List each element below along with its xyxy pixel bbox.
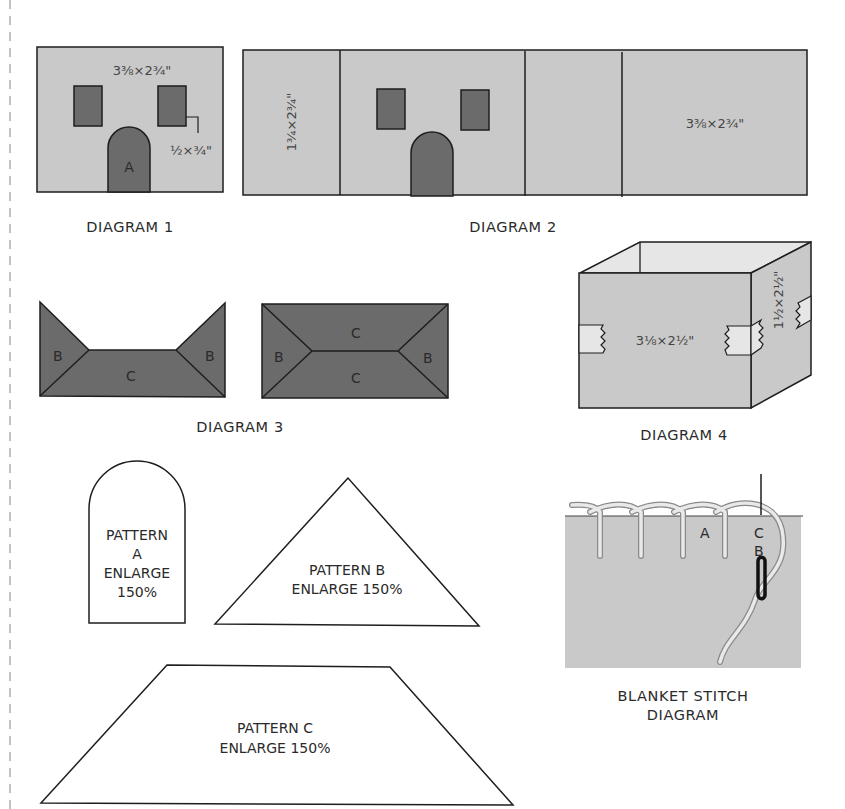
roof-unfolded: B C B: [40, 302, 225, 397]
window-right: [461, 90, 489, 130]
diagram-2-caption: DIAGRAM 2: [469, 219, 557, 235]
diagram-4: 3⅛×2½" 1½×2½" DIAGRAM 4: [579, 242, 811, 443]
side-dimension: 1¾×2¾": [284, 93, 299, 152]
label-b: B: [205, 348, 215, 364]
panel-dimension: 3⅜×2¾": [113, 63, 172, 78]
diagram-4-caption: DIAGRAM 4: [640, 427, 728, 443]
blanket-stitch-caption-2: DIAGRAM: [647, 707, 719, 723]
label-c: C: [351, 370, 361, 386]
point-b: B: [754, 543, 764, 559]
label-c: C: [351, 325, 361, 341]
pattern-b-line1: PATTERN B: [309, 562, 385, 578]
pattern-c-line1: PATTERN C: [237, 720, 313, 736]
pattern-a: PATTERN A ENLARGE 150%: [89, 461, 185, 623]
label-b: B: [53, 348, 63, 364]
label-c: C: [126, 368, 136, 384]
blanket-stitch-caption-1: BLANKET STITCH: [617, 688, 748, 704]
window-dimension: ½×¾": [170, 143, 212, 158]
window-left: [377, 89, 405, 129]
pattern-b: PATTERN B ENLARGE 150%: [215, 478, 479, 626]
window-left: [74, 86, 102, 126]
label-b: B: [423, 350, 433, 366]
roof-assembled: C B C B: [262, 304, 448, 398]
pattern-a-line4: 150%: [117, 584, 157, 600]
diagram-2: 1¾×2¾" 3⅜×2¾" DIAGRAM 2: [243, 50, 807, 235]
front-dimension: 3⅛×2½": [636, 333, 695, 348]
point-a: A: [700, 525, 710, 541]
label-b: B: [274, 349, 284, 365]
tape-strip-left: [579, 325, 605, 353]
pattern-a-line1: PATTERN: [106, 527, 168, 543]
craft-pattern-sheet: 3⅜×2¾" ½×¾" A DIAGRAM 1 1¾×2¾" 3⅜×2¾" DI…: [0, 0, 845, 809]
door: [411, 132, 453, 196]
blanket-stitch-diagram: A C B BLANKET STITCH DIAGRAM: [565, 474, 803, 723]
diagram-1-caption: DIAGRAM 1: [86, 219, 174, 235]
pattern-c: PATTERN C ENLARGE 150%: [41, 665, 513, 805]
pattern-b-outline: [215, 478, 479, 626]
pattern-c-line2: ENLARGE 150%: [220, 740, 331, 756]
diagram-3-caption: DIAGRAM 3: [196, 419, 284, 435]
door-label: A: [124, 159, 134, 175]
diagram-3: B C B C B C B DIAGRAM 3: [40, 302, 448, 435]
diagram-1: 3⅜×2¾" ½×¾" A DIAGRAM 1: [37, 47, 223, 235]
pattern-a-line3: ENLARGE: [104, 565, 170, 581]
point-c: C: [754, 525, 764, 541]
pattern-a-line2: A: [132, 546, 142, 562]
tape-strip-front-right: [725, 326, 751, 355]
pattern-b-line2: ENLARGE 150%: [292, 581, 403, 597]
back-dimension: 3⅜×2¾": [686, 116, 745, 131]
side-dimension: 1½×2½": [771, 271, 786, 330]
window-right: [158, 86, 186, 126]
